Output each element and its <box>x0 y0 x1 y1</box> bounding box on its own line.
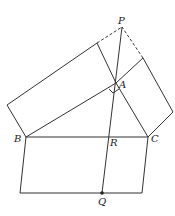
dashed-line-left-to-p <box>97 27 122 43</box>
label-q: Q <box>98 196 106 207</box>
rectangle-on-bc <box>20 137 148 193</box>
label-p: P <box>117 15 125 26</box>
dashed-line-right-to-p <box>122 27 143 58</box>
point-q-dot <box>100 191 104 195</box>
rectangle-on-ab <box>7 43 116 137</box>
label-b: B <box>13 133 21 144</box>
line-p-to-q <box>102 27 122 193</box>
label-a: A <box>118 79 126 90</box>
label-r: R <box>109 137 118 148</box>
label-c: C <box>151 133 159 144</box>
geometry-diagram: P A B C R Q <box>0 0 175 216</box>
square-on-ac <box>116 58 173 137</box>
